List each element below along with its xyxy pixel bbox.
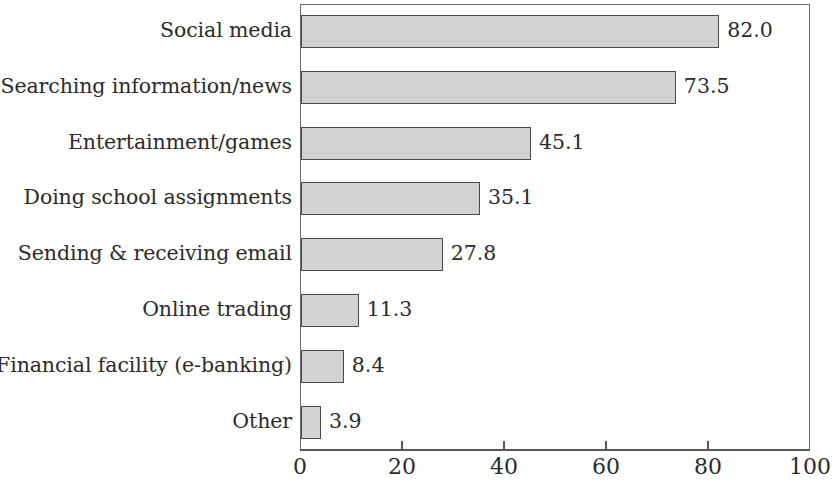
x-axis-tick bbox=[707, 441, 709, 449]
x-axis-tick bbox=[401, 441, 403, 449]
x-axis-tick-label: 60 bbox=[592, 456, 620, 478]
x-axis-tick-label: 100 bbox=[789, 456, 831, 478]
x-axis-tick-label: 40 bbox=[490, 456, 518, 478]
bar-chart: Social mediaSearching information/newsEn… bbox=[0, 0, 836, 491]
x-axis: 020406080100 bbox=[0, 0, 836, 491]
x-axis-tick-label: 20 bbox=[388, 456, 416, 478]
x-axis-tick bbox=[605, 441, 607, 449]
x-axis-tick-label: 0 bbox=[293, 456, 307, 478]
x-axis-tick-label: 80 bbox=[694, 456, 722, 478]
x-axis-tick bbox=[503, 441, 505, 449]
